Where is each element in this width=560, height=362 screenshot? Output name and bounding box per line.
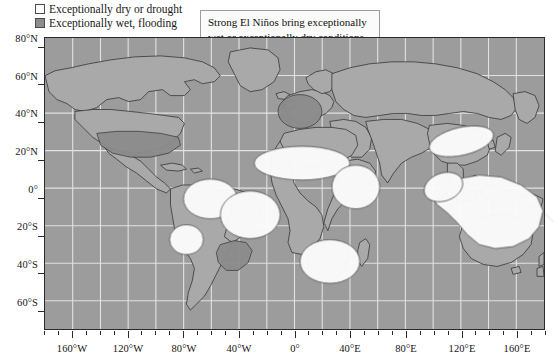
xtick-mark bbox=[141, 331, 142, 335]
legend-label-wet: Exceptionally wet, flooding bbox=[49, 17, 177, 29]
xtick-mark bbox=[169, 331, 170, 335]
xtick-mark bbox=[350, 331, 351, 338]
xtick-mark bbox=[531, 331, 532, 335]
xtick-label-120w: 120°W bbox=[101, 343, 155, 354]
ytick-mark bbox=[38, 236, 44, 237]
xtick-mark bbox=[100, 331, 101, 335]
xtick-mark bbox=[517, 331, 518, 338]
xtick-mark bbox=[211, 331, 212, 335]
xtick-mark bbox=[489, 331, 490, 335]
xtick-mark bbox=[267, 331, 268, 335]
ytick-mark bbox=[38, 311, 44, 312]
xtick-mark bbox=[295, 331, 296, 338]
ytick-mark bbox=[38, 160, 44, 161]
xtick-mark bbox=[281, 331, 282, 335]
xtick-mark bbox=[434, 331, 435, 335]
xtick-mark bbox=[72, 331, 73, 338]
legend-label-dry: Exceptionally dry or drought bbox=[49, 3, 182, 15]
xtick-mark bbox=[364, 331, 365, 335]
xtick-mark bbox=[392, 331, 393, 335]
map-legend: Exceptionally dry or drought Exceptional… bbox=[35, 2, 210, 30]
ytick-label-20n: 20°N bbox=[0, 146, 38, 157]
map-plot-area[interactable] bbox=[44, 37, 545, 330]
legend-swatch-icon-dry bbox=[35, 4, 45, 14]
xtick-mark bbox=[58, 331, 59, 335]
xtick-mark bbox=[44, 331, 45, 335]
ytick-mark bbox=[38, 122, 44, 123]
map-canvas bbox=[45, 38, 544, 329]
legend-item-wet[interactable]: Exceptionally wet, flooding bbox=[35, 16, 210, 29]
xtick-label-40e: 40°E bbox=[323, 343, 377, 354]
ytick-mark bbox=[38, 198, 44, 199]
ytick-label-20s: 20°S bbox=[0, 221, 38, 232]
ytick-label-80n: 80°N bbox=[0, 33, 38, 44]
xtick-mark bbox=[545, 331, 546, 335]
xtick-label-160w: 160°W bbox=[45, 343, 99, 354]
xtick-mark bbox=[420, 331, 421, 335]
ytick-label-40n: 40°N bbox=[0, 108, 38, 119]
xtick-mark bbox=[503, 331, 504, 335]
ytick-label-60n: 60°N bbox=[0, 71, 38, 82]
xtick-mark bbox=[378, 331, 379, 335]
xtick-mark bbox=[86, 331, 87, 335]
xtick-mark bbox=[448, 331, 449, 335]
ytick-label-0: 0° bbox=[0, 184, 38, 195]
ytick-mark bbox=[38, 47, 44, 48]
xtick-label-80w: 80°W bbox=[157, 343, 211, 354]
xtick-mark bbox=[183, 331, 184, 338]
ytick-mark bbox=[38, 84, 44, 85]
xtick-mark bbox=[128, 331, 129, 338]
xtick-mark bbox=[239, 331, 240, 338]
legend-item-dry[interactable]: Exceptionally dry or drought bbox=[35, 2, 210, 15]
xtick-mark bbox=[155, 331, 156, 335]
ytick-label-60s: 60°S bbox=[0, 297, 38, 308]
xtick-mark bbox=[114, 331, 115, 335]
xtick-label-0: 0° bbox=[268, 343, 322, 354]
xtick-mark bbox=[475, 331, 476, 335]
legend-swatch-icon-wet bbox=[35, 18, 45, 28]
xtick-label-160e: 160°E bbox=[490, 343, 544, 354]
xtick-mark bbox=[336, 331, 337, 335]
xtick-label-40w: 40°W bbox=[212, 343, 266, 354]
xtick-mark bbox=[197, 331, 198, 335]
ytick-label-40s: 40°S bbox=[0, 259, 38, 270]
xtick-mark bbox=[308, 331, 309, 335]
map-figure: Exceptionally dry or drought Exceptional… bbox=[0, 0, 560, 362]
xtick-label-120e: 120°E bbox=[435, 343, 489, 354]
xtick-mark bbox=[462, 331, 463, 338]
xtick-mark bbox=[406, 331, 407, 338]
xtick-mark bbox=[225, 331, 226, 335]
xtick-label-80e: 80°E bbox=[379, 343, 433, 354]
ytick-mark bbox=[38, 273, 44, 274]
xtick-mark bbox=[322, 331, 323, 335]
xtick-mark bbox=[253, 331, 254, 335]
